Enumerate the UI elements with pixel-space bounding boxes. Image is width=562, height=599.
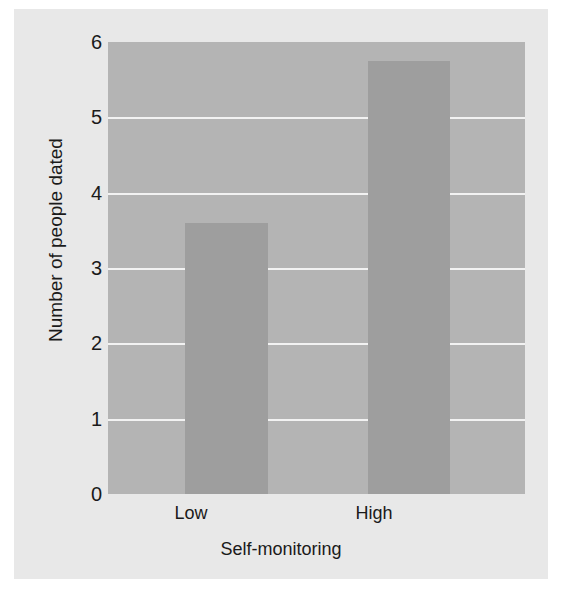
bar-low[interactable] xyxy=(185,223,268,494)
y-tick-5: 5 xyxy=(74,107,102,127)
y-tick-3: 3 xyxy=(74,258,102,278)
y-tick-0: 0 xyxy=(74,484,102,504)
y-tick-2: 2 xyxy=(74,333,102,353)
y-tick-4: 4 xyxy=(74,183,102,203)
x-axis-title: Self-monitoring xyxy=(14,539,548,560)
gridline-1 xyxy=(108,419,525,421)
x-tick-high: High xyxy=(291,503,457,524)
gridline-5 xyxy=(108,117,525,119)
chart-figure: Number of people dated 0 1 2 3 4 5 6 Low… xyxy=(14,9,548,579)
chart-page: Number of people dated 0 1 2 3 4 5 6 Low… xyxy=(0,0,562,599)
y-axis-tick-labels: 0 1 2 3 4 5 6 xyxy=(66,42,102,494)
y-tick-1: 1 xyxy=(74,409,102,429)
gridline-3 xyxy=(108,268,525,270)
y-tick-6: 6 xyxy=(74,32,102,52)
x-tick-low: Low xyxy=(108,503,274,524)
plot-area xyxy=(108,42,525,494)
y-axis-title: Number of people dated xyxy=(45,120,67,360)
gridline-2 xyxy=(108,343,525,345)
gridline-4 xyxy=(108,193,525,195)
bar-high[interactable] xyxy=(368,61,450,494)
